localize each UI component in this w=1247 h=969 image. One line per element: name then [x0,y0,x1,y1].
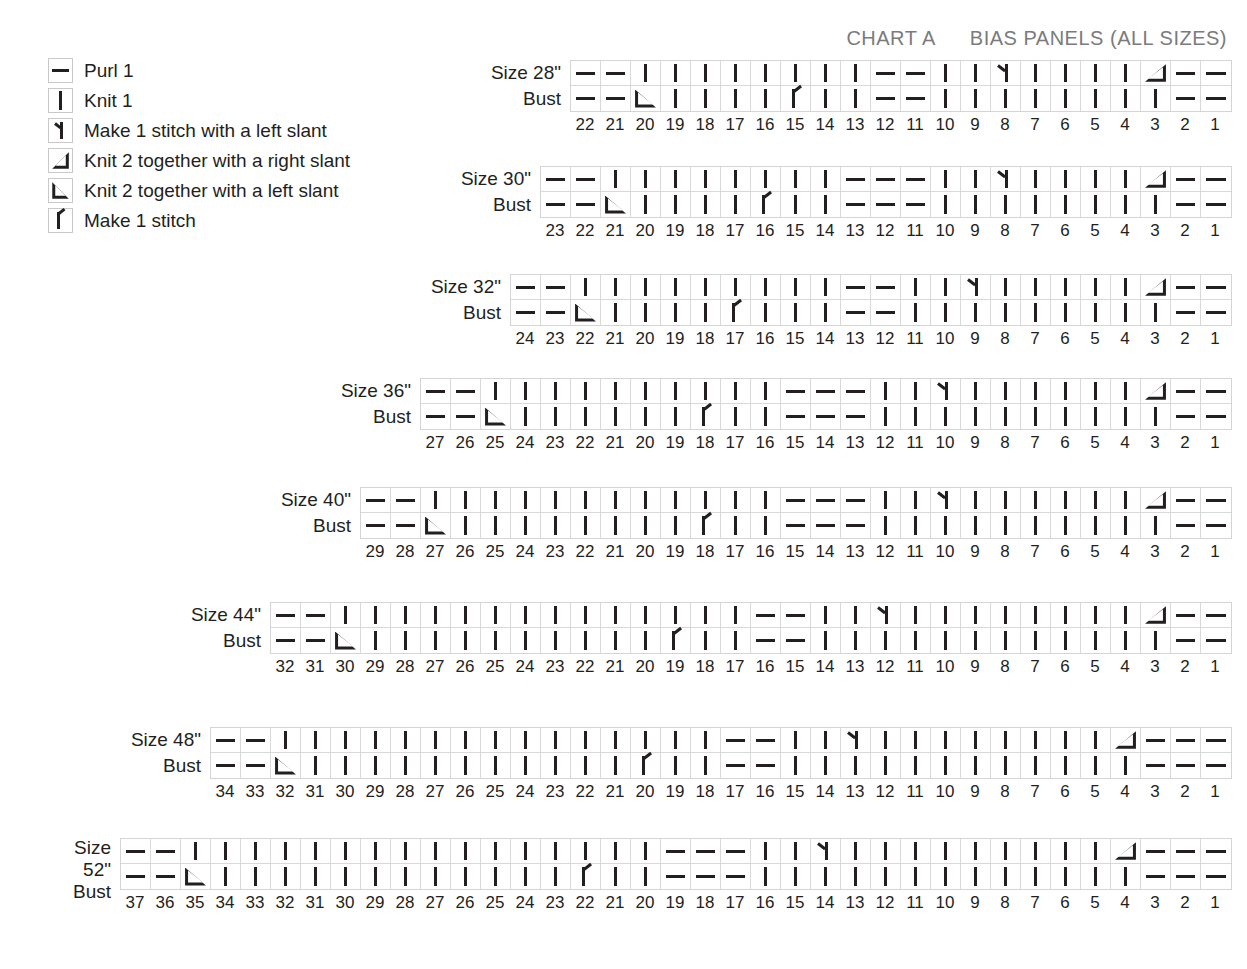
purl-1-icon [1201,379,1231,404]
purl-1-icon [841,300,871,325]
purl-1-icon [421,404,451,429]
knit-1-icon [541,839,571,864]
knit-1-icon [631,728,661,753]
knit-1-icon [1021,61,1051,86]
stitch-number: 29 [360,782,390,802]
stitch-number: 20 [630,115,660,135]
knit-1-icon [631,275,661,300]
knit-1-icon [1081,379,1111,404]
knit-2-together-left-slant-icon [271,753,301,778]
knit-1-icon [1051,379,1081,404]
knit-1-icon [721,513,751,538]
knit-2-together-left-slant-icon [331,628,361,653]
knit-1-icon [721,86,751,111]
knit-1-icon [1111,864,1141,889]
stitch-number: 4 [1110,433,1140,453]
stitch-row [421,404,1231,429]
purl-1-icon [1201,192,1231,217]
stitch-number: 23 [540,657,570,677]
stitch-number: 6 [1050,115,1080,135]
knit-1-icon [301,728,331,753]
make-1-icon [781,86,811,111]
knit-1-icon [661,728,691,753]
purl-1-icon [751,728,781,753]
purl-1-icon [1171,864,1201,889]
stitch-number: 24 [510,893,540,913]
knit-2-together-right-slant-icon [1141,379,1171,404]
knit-1-icon [691,61,721,86]
stitch-number: 3 [1140,329,1170,349]
purl-1-icon [151,864,181,889]
purl-1-icon [841,488,871,513]
knit-1-icon [541,404,571,429]
knit-1-icon [1141,192,1171,217]
stitch-number: 4 [1110,115,1140,135]
stitch-number: 1 [1200,221,1230,241]
stitch-number: 5 [1080,329,1110,349]
knit-1-icon [571,728,601,753]
knit-1-icon [541,513,571,538]
knit-1-icon [361,728,391,753]
knit-1-icon [721,404,751,429]
knit-1-icon [1081,864,1111,889]
purl-1-icon [1201,603,1231,628]
purl-1-icon [1201,628,1231,653]
stitch-number: 20 [630,893,660,913]
purl-1-icon [871,86,901,111]
knit-1-icon [1051,275,1081,300]
stitch-number: 2 [1170,433,1200,453]
knit-1-icon [361,628,391,653]
stitch-number: 14 [810,433,840,453]
stitch-number: 18 [690,329,720,349]
stitch-number: 23 [540,542,570,562]
knit-1-icon [361,753,391,778]
stitch-number: 24 [510,657,540,677]
knit-1-icon [511,753,541,778]
knit-1-icon [601,603,631,628]
chart-size-label-line: Size 44" [61,602,261,628]
stitch-number: 21 [600,115,630,135]
stitch-number: 6 [1050,782,1080,802]
knit-1-icon [691,628,721,653]
stitch-grid [510,274,1232,326]
stitch-number: 1 [1200,115,1230,135]
stitch-number: 19 [660,893,690,913]
stitch-number: 23 [540,893,570,913]
knit-1-icon [1141,513,1171,538]
stitch-row [121,839,1231,864]
purl-1-icon [541,167,571,192]
knit-1-icon [721,628,751,653]
knit-1-icon [961,839,991,864]
knit-1-icon [391,728,421,753]
knit-1-icon [541,379,571,404]
knit-1-icon [1021,404,1051,429]
stitch-number: 33 [240,782,270,802]
stitch-number: 5 [1080,221,1110,241]
stitch-number: 18 [690,542,720,562]
knit-1-icon [781,167,811,192]
knit-1-icon [541,488,571,513]
purl-1-icon [571,86,601,111]
chart-size-label-line: Size 48" [1,727,201,753]
knit-1-icon [391,628,421,653]
purl-1-icon [271,628,301,653]
stitch-number: 13 [840,115,870,135]
stitch-number: 4 [1110,221,1140,241]
knit-1-icon [1111,404,1141,429]
knit-1-icon [511,404,541,429]
knit-1-icon [991,839,1021,864]
knit-1-icon [1081,300,1111,325]
knit-1-icon [811,753,841,778]
knit-1-icon [541,628,571,653]
knit-1-icon [1021,728,1051,753]
knit-1-icon [1081,628,1111,653]
stitch-number: 3 [1140,893,1170,913]
knit-1-icon [451,513,481,538]
knit-1-icon [961,300,991,325]
knit-1-icon [1081,728,1111,753]
knit-1-icon [871,488,901,513]
stitch-number: 15 [780,329,810,349]
knit-1-icon [1051,628,1081,653]
knit-1-icon [661,86,691,111]
make-1-icon [751,192,781,217]
